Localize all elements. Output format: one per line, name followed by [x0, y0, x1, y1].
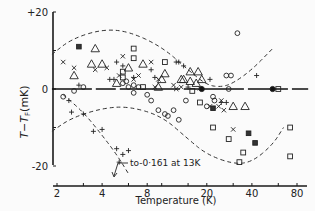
- data-point: [70, 71, 78, 78]
- data-point: [222, 108, 226, 112]
- data-point: [105, 66, 109, 70]
- data-point: [61, 60, 65, 64]
- data-point: [253, 141, 258, 146]
- data-point: [241, 102, 249, 109]
- data-point: [176, 60, 181, 65]
- data-point: [120, 63, 125, 68]
- data-point: [224, 73, 229, 78]
- y-tick-label: 0: [42, 84, 48, 95]
- curve: [52, 30, 273, 86]
- data-point: [145, 92, 150, 97]
- data-points: [61, 31, 293, 165]
- data-point: [211, 125, 216, 130]
- x-axis-label: Temperature (K): [135, 195, 217, 206]
- data-point: [226, 137, 231, 142]
- data-point: [149, 67, 154, 72]
- data-point: [199, 86, 204, 91]
- data-point: [131, 46, 136, 51]
- data-point: [66, 98, 71, 103]
- annotation-label: to-0·161 at 13K: [130, 158, 201, 168]
- data-point: [87, 60, 95, 67]
- data-point: [69, 110, 74, 115]
- data-point: [288, 125, 293, 130]
- data-point: [131, 90, 136, 95]
- data-point: [139, 60, 147, 67]
- data-point: [162, 60, 167, 65]
- data-point: [72, 66, 76, 70]
- x-tick-label: 40: [246, 188, 259, 199]
- x-tick-label: 80: [291, 188, 304, 199]
- data-point: [91, 129, 96, 134]
- data-point: [149, 60, 153, 64]
- data-point: [176, 117, 181, 122]
- data-point: [246, 131, 251, 136]
- y-axis-label: T−TF(mK): [18, 85, 32, 138]
- data-point: [198, 75, 206, 82]
- chart: +200-20248204080 T−TF(mK) Temperature (K…: [0, 0, 315, 211]
- data-point: [121, 54, 125, 58]
- x-tick-label: 2: [54, 188, 60, 199]
- data-point: [120, 152, 125, 157]
- data-point: [126, 148, 131, 153]
- data-point: [288, 154, 293, 159]
- data-point: [254, 73, 259, 78]
- data-point: [149, 98, 154, 103]
- data-point: [171, 108, 176, 113]
- data-point: [114, 60, 119, 65]
- data-point: [179, 85, 183, 89]
- y-tick-label: -20: [32, 161, 48, 172]
- data-point: [198, 100, 203, 105]
- data-point: [91, 44, 99, 51]
- data-point: [216, 104, 220, 108]
- data-point: [131, 83, 136, 88]
- data-point: [93, 68, 97, 72]
- data-point: [156, 108, 161, 113]
- data-point: [100, 127, 105, 132]
- data-point: [207, 77, 212, 82]
- data-point: [270, 86, 275, 91]
- data-point: [241, 150, 246, 155]
- y-tick-label: +20: [27, 7, 48, 18]
- labels: T−TF(mK) Temperature (K) to-0·161 at 13K: [18, 85, 217, 206]
- data-point: [131, 75, 136, 80]
- data-point: [231, 127, 235, 131]
- data-point: [235, 31, 240, 36]
- data-point: [194, 67, 202, 74]
- data-point: [237, 160, 242, 165]
- data-point: [229, 102, 237, 109]
- data-point: [229, 73, 234, 78]
- data-point: [81, 112, 86, 117]
- data-point: [204, 104, 209, 109]
- x-tick-label: 4: [99, 188, 105, 199]
- data-point: [219, 100, 224, 105]
- data-point: [114, 146, 119, 151]
- data-point: [224, 100, 229, 105]
- data-point: [131, 56, 136, 61]
- data-point: [77, 44, 82, 49]
- data-point: [211, 106, 216, 111]
- data-point: [136, 73, 140, 77]
- data-point: [152, 75, 157, 80]
- data-point: [171, 83, 175, 87]
- data-point: [183, 98, 188, 103]
